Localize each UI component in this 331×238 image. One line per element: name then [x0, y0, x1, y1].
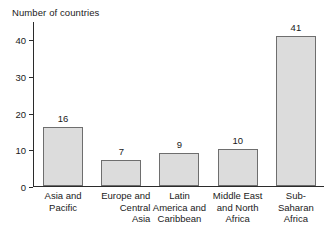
bar [218, 149, 258, 186]
bar-value-label: 16 [58, 113, 69, 124]
y-tick-mark [29, 187, 33, 188]
y-tick-mark [29, 77, 33, 78]
category-label-line: Caribbean [150, 213, 208, 225]
y-tick-label: 40 [15, 35, 26, 46]
bar-series: 16791041 [34, 22, 324, 186]
y-tick-mark [29, 40, 33, 41]
category-label-line: and North [209, 202, 267, 214]
bar [159, 153, 199, 186]
bar-slot: 16 [34, 22, 92, 186]
category-label-line: Pacific [34, 202, 92, 214]
category-label-line: Central [92, 202, 150, 214]
x-axis-category-label: Europe andCentralAsia [92, 190, 150, 225]
category-label-line: Latin [150, 190, 208, 202]
y-tick-label: 10 [15, 145, 26, 156]
bar-slot: 10 [209, 22, 267, 186]
y-tick-label: 20 [15, 108, 26, 119]
bar-value-label: 7 [119, 146, 124, 157]
category-label-line: Asia and [34, 190, 92, 202]
x-axis-category-label: Sub-SaharanAfrica [267, 190, 325, 225]
bar [276, 36, 316, 186]
x-axis-category-label: Middle Eastand NorthAfrica [209, 190, 267, 225]
y-tick-mark [29, 114, 33, 115]
y-tick-label: 0 [21, 182, 26, 193]
x-axis-category-label: LatinAmerica andCaribbean [150, 190, 208, 225]
bar-value-label: 41 [291, 22, 302, 33]
bar-value-label: 10 [232, 135, 243, 146]
category-label-line: Africa [267, 213, 325, 225]
category-label-line: Saharan [267, 202, 325, 214]
category-label-line: Sub- [267, 190, 325, 202]
bar-chart: Number of countries 010203040 16791041 A… [0, 0, 331, 238]
bar-slot: 41 [267, 22, 325, 186]
x-axis-category-labels: Asia andPacificEurope andCentralAsiaLati… [34, 190, 325, 236]
bar [43, 127, 83, 186]
bar-value-label: 9 [177, 139, 182, 150]
plot-area: 010203040 16791041 [33, 22, 324, 187]
category-label-line: Africa [209, 213, 267, 225]
category-label-line: America and [150, 202, 208, 214]
x-axis-line [33, 186, 324, 187]
category-label-line: Asia [92, 213, 150, 225]
y-axis-title: Number of countries [12, 7, 99, 18]
y-tick-mark [29, 150, 33, 151]
bar-slot: 9 [150, 22, 208, 186]
category-label-line: Europe and [92, 190, 150, 202]
category-label-line: Middle East [209, 190, 267, 202]
bar [101, 160, 141, 186]
bar-slot: 7 [92, 22, 150, 186]
x-axis-category-label: Asia andPacific [34, 190, 92, 213]
y-tick-label: 30 [15, 72, 26, 83]
